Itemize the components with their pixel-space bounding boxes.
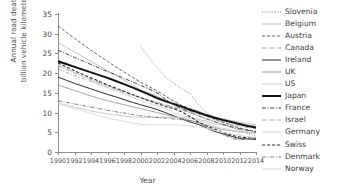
- legend-swatch-icon: [262, 164, 281, 174]
- x-axis-tick: [157, 152, 158, 155]
- x-axis-title: Year: [40, 176, 255, 185]
- legend-label: Germany: [285, 127, 320, 137]
- legend-swatch-icon: [262, 127, 281, 137]
- x-axis-tick: [207, 152, 208, 155]
- series-line-swiss: [58, 63, 256, 138]
- legend-item-canada[interactable]: Canada: [262, 42, 345, 54]
- legend-swatch-icon: [262, 103, 281, 113]
- legend-swatch-icon: [262, 31, 281, 41]
- x-axis-tick: [58, 152, 59, 155]
- legend-label: Swiss: [285, 140, 306, 150]
- y-axis-tick-label: 25: [36, 49, 52, 58]
- y-axis-tick-label: 30: [36, 30, 52, 39]
- legend-item-belgium[interactable]: Belgium: [262, 18, 345, 30]
- x-axis-tick: [256, 152, 257, 155]
- legend-swatch-icon: [262, 79, 281, 89]
- x-axis-tick: [190, 152, 191, 155]
- x-axis-tick: [75, 152, 76, 155]
- legend: SloveniaBelgiumAustriaCanadaIrelandUKUSJ…: [262, 6, 345, 175]
- x-axis-tick: [240, 152, 241, 155]
- legend-label: Belgium: [285, 19, 316, 29]
- legend-item-austria[interactable]: Austria: [262, 30, 345, 42]
- series-lines: [58, 14, 256, 152]
- x-axis-tick: [124, 152, 125, 155]
- legend-label: Canada: [285, 43, 314, 53]
- legend-item-norway[interactable]: Norway: [262, 163, 345, 175]
- legend-label: Slovenia: [285, 7, 317, 17]
- y-axis-tick-label: 35: [36, 10, 52, 19]
- legend-item-slovenia[interactable]: Slovenia: [262, 6, 345, 18]
- legend-swatch-icon: [262, 7, 281, 17]
- y-axis-tick-label: 15: [36, 89, 52, 98]
- y-axis-tick-label: 20: [36, 69, 52, 78]
- legend-item-ireland[interactable]: Ireland: [262, 54, 345, 66]
- x-axis-tick: [223, 152, 224, 155]
- legend-item-israel[interactable]: Israel: [262, 114, 345, 126]
- legend-swatch-icon: [262, 43, 281, 53]
- y-axis-tick-label: 5: [36, 128, 52, 137]
- y-axis-tick-label: 10: [36, 109, 52, 118]
- legend-item-france[interactable]: France: [262, 102, 345, 114]
- legend-swatch-icon: [262, 140, 281, 150]
- legend-label: Ireland: [285, 55, 311, 65]
- legend-swatch-icon: [262, 91, 281, 101]
- legend-item-swiss[interactable]: Swiss: [262, 139, 345, 151]
- legend-label: Israel: [285, 115, 306, 125]
- chart-figure: Annual road deaths per billion vehicle k…: [0, 0, 345, 193]
- legend-label: UK: [285, 67, 296, 77]
- plot-area: [58, 14, 256, 152]
- x-axis-tick: [141, 152, 142, 155]
- legend-swatch-icon: [262, 55, 281, 65]
- x-axis-tick: [174, 152, 175, 155]
- legend-label: Japan: [285, 91, 306, 101]
- x-axis-tick: [108, 152, 109, 155]
- legend-label: Austria: [285, 31, 312, 41]
- legend-swatch-icon: [262, 152, 281, 162]
- x-axis-tick: [91, 152, 92, 155]
- legend-item-denmark[interactable]: Denmark: [262, 151, 345, 163]
- legend-swatch-icon: [262, 67, 281, 77]
- legend-label: France: [285, 103, 310, 113]
- legend-swatch-icon: [262, 19, 281, 29]
- legend-item-germany[interactable]: Germany: [262, 126, 345, 138]
- legend-label: Norway: [285, 164, 314, 174]
- legend-item-us[interactable]: US: [262, 78, 345, 90]
- legend-item-japan[interactable]: Japan: [262, 90, 345, 102]
- legend-swatch-icon: [262, 115, 281, 125]
- legend-label: US: [285, 79, 295, 89]
- y-axis-tick-label: 0: [36, 148, 52, 157]
- legend-item-uk[interactable]: UK: [262, 66, 345, 78]
- legend-label: Denmark: [285, 152, 320, 162]
